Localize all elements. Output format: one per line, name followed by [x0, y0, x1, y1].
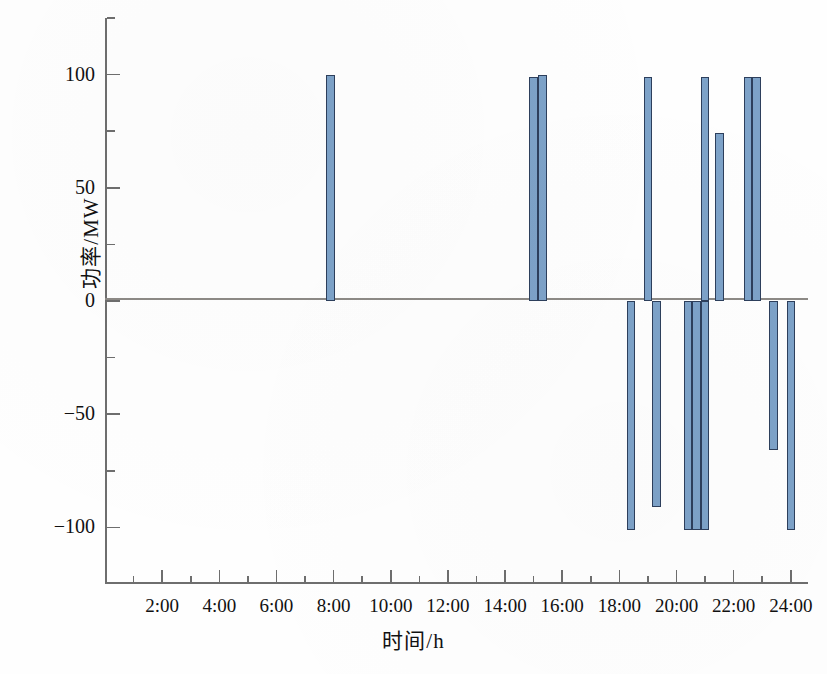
x-tick-minor: [590, 576, 592, 582]
bar: [701, 301, 710, 530]
x-tick-minor: [304, 576, 306, 582]
x-tick-minor: [419, 576, 421, 582]
x-tick-minor: [476, 576, 478, 582]
x-tick-minor: [133, 576, 135, 582]
y-tick-label: 50: [75, 177, 95, 197]
bar: [752, 77, 761, 301]
x-tick-label: 20:00: [655, 596, 698, 615]
y-tick-minor: [107, 244, 115, 246]
x-tick-major: [619, 570, 621, 582]
x-tick-minor: [190, 576, 192, 582]
x-tick-label: 14:00: [483, 596, 526, 615]
x-tick-major: [447, 570, 449, 582]
x-tick-label: 16:00: [541, 596, 584, 615]
x-tick-major: [219, 570, 221, 582]
bar: [644, 77, 653, 301]
bar: [627, 301, 636, 530]
x-tick-label: 18:00: [598, 596, 641, 615]
plot-area: 100500−50−100 2:004:006:008:0010:0012:00…: [105, 18, 808, 584]
x-tick-label: 24:00: [769, 596, 812, 615]
x-tick-minor: [704, 576, 706, 582]
x-tick-label: 10:00: [369, 596, 412, 615]
y-tick-major: [107, 413, 120, 415]
bar: [701, 77, 710, 301]
x-tick-minor: [761, 576, 763, 582]
x-tick-major: [276, 570, 278, 582]
figure-canvas: 功率/MW 时间/h 100500−50−100 2:004:006:008:0…: [0, 0, 827, 674]
bar: [684, 301, 693, 530]
x-tick-label: 22:00: [712, 596, 755, 615]
y-tick-label: 0: [85, 290, 95, 310]
y-tick-minor: [107, 17, 115, 19]
x-tick-major: [676, 570, 678, 582]
x-tick-minor: [247, 576, 249, 582]
y-tick-major: [107, 74, 120, 76]
bar: [769, 301, 778, 450]
y-tick-minor: [107, 357, 115, 359]
bar: [715, 133, 724, 301]
x-tick-major: [504, 570, 506, 582]
bar: [529, 77, 538, 301]
y-tick-minor: [107, 470, 115, 472]
x-tick-major: [390, 570, 392, 582]
x-tick-major: [561, 570, 563, 582]
y-tick-major: [107, 187, 120, 189]
bar: [744, 77, 753, 301]
bar: [538, 75, 547, 301]
bar: [652, 301, 661, 507]
x-axis-label: 时间/h: [0, 624, 827, 654]
x-tick-major: [733, 570, 735, 582]
x-axis-line: [105, 582, 808, 584]
x-tick-label: 12:00: [426, 596, 469, 615]
bar: [326, 75, 335, 301]
y-tick-major: [107, 300, 120, 302]
y-tick-label: −50: [64, 403, 95, 423]
x-tick-major: [333, 570, 335, 582]
x-tick-label: 4:00: [202, 596, 236, 615]
y-tick-label: 100: [65, 64, 95, 84]
bar: [692, 301, 701, 530]
x-tick-minor: [647, 576, 649, 582]
x-tick-minor: [361, 576, 363, 582]
x-tick-label: 2:00: [145, 596, 179, 615]
x-tick-minor: [533, 576, 535, 582]
bar: [787, 301, 796, 530]
y-tick-minor: [107, 130, 115, 132]
y-tick-label: −100: [54, 516, 95, 536]
x-tick-label: 8:00: [317, 596, 351, 615]
x-tick-label: 6:00: [260, 596, 294, 615]
x-tick-major: [161, 570, 163, 582]
y-tick-major: [107, 527, 120, 529]
x-tick-major: [790, 570, 792, 582]
